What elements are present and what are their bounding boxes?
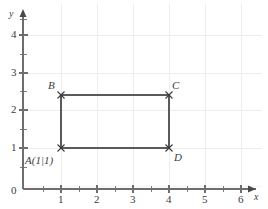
y-tick-label-4: 4 — [11, 29, 17, 40]
x-tick-label-3: 3 — [130, 194, 136, 205]
x-tick-label-2: 2 — [94, 194, 100, 205]
rectangle-abcd — [61, 95, 169, 148]
axis-lines — [23, 12, 256, 189]
x-tick-label-6: 6 — [238, 194, 244, 205]
vertex-markers — [58, 92, 173, 152]
y-axis-name: y — [9, 9, 13, 19]
y-axis-arrowhead — [20, 9, 27, 17]
vertex-label-c: C — [172, 80, 179, 91]
y-tick-label-1: 1 — [11, 142, 17, 153]
coordinate-plane-figure: y x 0 4 3 2 1 1 2 3 4 5 6 B C D A(1|1) — [0, 0, 268, 209]
x-tick-label-4: 4 — [166, 194, 172, 205]
vertex-label-a: A(1|1) — [25, 155, 53, 166]
x-tick-label-5: 5 — [202, 194, 208, 205]
x-axis-name: x — [254, 192, 258, 202]
y-tick-label-3: 3 — [11, 67, 17, 78]
y-tick-label-2: 2 — [11, 104, 17, 115]
origin-label: 0 — [11, 185, 17, 196]
vertex-label-b: B — [48, 80, 55, 91]
plot-svg — [0, 0, 268, 209]
vertex-label-d: D — [174, 152, 182, 163]
x-tick-label-1: 1 — [58, 194, 64, 205]
